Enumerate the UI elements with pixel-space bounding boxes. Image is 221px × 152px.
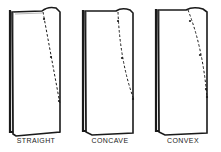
folded-panel-concave-drawing [70, 0, 145, 140]
figure-concave: CONCAVE [70, 0, 145, 140]
folded-panel-convex-drawing [141, 0, 221, 140]
folded-panel-straight-drawing [0, 0, 75, 140]
label-convex: CONVEX [167, 137, 199, 144]
figure-convex: CONVEX [141, 0, 221, 140]
figure-straight: STRAIGHT [0, 0, 75, 140]
label-straight: STRAIGHT [17, 137, 56, 144]
label-concave: CONCAVE [92, 137, 129, 144]
